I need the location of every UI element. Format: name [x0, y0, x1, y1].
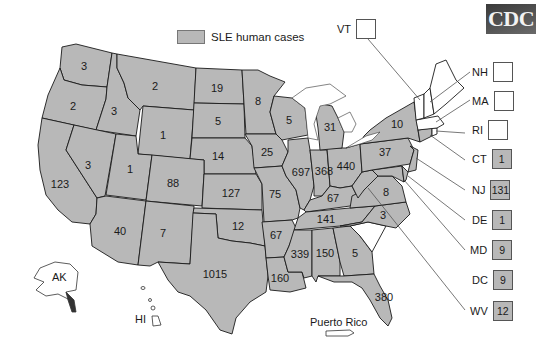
alaska-panhandle [66, 292, 76, 312]
callout-dc: DC 9 [472, 270, 513, 290]
label-or: 2 [70, 100, 76, 112]
callout-label: NJ [472, 184, 485, 196]
callout-label: CT [472, 153, 487, 165]
label-ms: 339 [291, 248, 309, 260]
label-tn: 141 [317, 213, 335, 225]
label-il: 697 [292, 166, 310, 178]
legend-swatch [177, 30, 205, 44]
label-va: 8 [383, 186, 389, 198]
label-wi: 5 [286, 114, 292, 126]
label-nd: 19 [211, 82, 223, 94]
label-nc: 3 [380, 209, 386, 221]
label-oh: 440 [337, 160, 355, 172]
callout-wv: WV 12 [470, 301, 513, 321]
cdc-logo: CDC [486, 4, 536, 34]
label-nm: 7 [160, 227, 166, 239]
callout-label: MA [472, 95, 489, 107]
label-in: 368 [315, 165, 333, 177]
callout-value-box: 12 [493, 301, 513, 321]
label-ga: 5 [352, 247, 358, 259]
callout-value-box [494, 91, 514, 111]
callout-label: NH [472, 66, 488, 78]
callout-value-box: 1 [492, 149, 512, 169]
callout-ri: RI [472, 120, 508, 140]
label-fl: 380 [375, 291, 393, 303]
callout-label: DC [472, 274, 488, 286]
label-ar: 67 [270, 229, 282, 241]
callout-de: DE 1 [472, 210, 512, 230]
label-id: 3 [111, 105, 117, 117]
state-vt [414, 94, 424, 120]
label-wa: 3 [81, 60, 87, 72]
callout-value-box [488, 120, 508, 140]
callout-value-box: 9 [493, 270, 513, 290]
callout-label: MD [470, 244, 487, 256]
callout-label: DE [472, 214, 487, 226]
legend: SLE human cases [177, 30, 304, 44]
callout-value-box [356, 19, 376, 39]
inset-label-alaska: AK [52, 271, 67, 283]
state-ri [432, 128, 437, 136]
label-mn: 8 [255, 95, 261, 107]
callout-value-box [493, 62, 513, 82]
label-al: 150 [316, 247, 334, 259]
callout-md: MD 9 [470, 240, 512, 260]
callout-value-box: 1 [492, 210, 512, 230]
label-ca: 123 [51, 178, 69, 190]
label-ne: 14 [212, 150, 224, 162]
label-ks: 127 [222, 187, 240, 199]
callout-vt: VT [337, 19, 376, 39]
puerto-rico-outline [326, 330, 354, 336]
label-sd: 5 [215, 115, 221, 127]
us-map: 3 2 3 2 19 8 1 5 5 31 10 25 14 3 1 37 69… [0, 0, 539, 344]
label-la: 160 [271, 272, 289, 284]
label-co: 88 [167, 177, 179, 189]
callout-nh: NH [472, 62, 513, 82]
label-tx: 1015 [203, 268, 227, 280]
callout-value-box: 131 [490, 180, 510, 200]
inset-label-puerto-rico: Puerto Rico [310, 316, 367, 328]
label-ia: 25 [261, 146, 273, 158]
inset-label-hawaii: HI [135, 313, 146, 325]
label-mi: 31 [324, 121, 336, 133]
callout-label: RI [472, 124, 483, 136]
callout-label: VT [337, 23, 351, 35]
label-mo: 75 [269, 188, 281, 200]
state-me [430, 60, 464, 114]
callout-value-box: 9 [492, 240, 512, 260]
callout-ct: CT 1 [472, 149, 512, 169]
label-nv: 3 [85, 159, 91, 171]
label-ut: 1 [127, 163, 133, 175]
label-pa: 37 [379, 146, 391, 158]
label-ok: 12 [232, 220, 244, 232]
label-ny: 10 [391, 118, 403, 130]
label-az: 40 [114, 225, 126, 237]
callout-nj: NJ 131 [472, 180, 510, 200]
label-ky: 67 [327, 192, 339, 204]
callout-label: WV [470, 305, 488, 317]
callout-ma: MA [472, 91, 514, 111]
label-wy: 1 [160, 129, 166, 141]
label-mt: 2 [152, 80, 158, 92]
legend-label: SLE human cases [211, 31, 304, 43]
